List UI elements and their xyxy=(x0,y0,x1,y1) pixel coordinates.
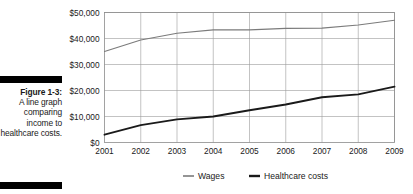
x-axis-tick-label: 2001 xyxy=(95,146,114,156)
legend-label-healthcare-costs: Healthcare costs xyxy=(264,171,328,181)
y-axis-tick-label: $40,000 xyxy=(70,34,100,44)
x-axis-tick-label: 2007 xyxy=(313,146,332,156)
x-axis-tick-label: 2004 xyxy=(204,146,223,156)
x-axis-tick-label: 2002 xyxy=(132,146,151,156)
legend-label-wages: Wages xyxy=(198,171,224,181)
y-axis-tick-label: $30,000 xyxy=(70,60,100,70)
x-axis-tick-label: 2006 xyxy=(277,146,296,156)
x-axis-tick-label: 2009 xyxy=(385,146,404,156)
line-chart: $0$10,000$20,000$30,000$40,000$50,000 20… xyxy=(0,0,413,194)
chart-legend: WagesHealthcare costs xyxy=(183,171,328,181)
y-axis-tick-label: $20,000 xyxy=(70,86,100,96)
figure-container: Figure 1-3: A line graph comparing incom… xyxy=(0,0,413,194)
x-axis-tick-labels: 200120022003200420052006200720082009 xyxy=(95,146,404,156)
x-axis-tick-label: 2008 xyxy=(349,146,368,156)
y-axis-tick-labels: $0$10,000$20,000$30,000$40,000$50,000 xyxy=(70,8,100,148)
x-axis-tick-label: 2005 xyxy=(240,146,259,156)
x-axis-tick-label: 2003 xyxy=(168,146,187,156)
y-axis-tick-label: $10,000 xyxy=(70,112,100,122)
y-axis-tick-label: $50,000 xyxy=(70,8,100,18)
chart-svg: $0$10,000$20,000$30,000$40,000$50,000 20… xyxy=(0,0,413,194)
